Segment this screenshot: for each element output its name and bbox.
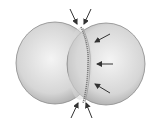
arrow-top-right-icon	[84, 9, 91, 24]
cleavage-diagram	[0, 0, 153, 128]
arrow-bottom-right-icon	[86, 103, 92, 118]
cell-illustration	[0, 0, 153, 128]
arrow-bottom-left-icon	[71, 103, 78, 118]
arrow-top-left-icon	[70, 9, 77, 24]
